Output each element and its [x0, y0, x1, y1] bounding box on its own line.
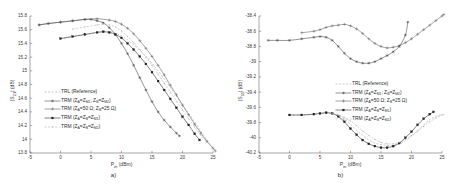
panel-b-caption: b) [227, 172, 454, 178]
legend-label: TRM (ZA=ZB=ZM2) [352, 116, 391, 122]
y-tick-label: -40 [227, 135, 256, 140]
x-tick-label: 10 [343, 155, 359, 160]
legend-item: TRL (Reference) [335, 80, 407, 89]
x-tick-label: 25 [434, 155, 450, 160]
legend-item: TRM (ZA=ZM1; ZB=ZM2) [335, 89, 407, 98]
y-tick-label: 15.4 [0, 41, 27, 46]
y-tick-label: 14.2 [0, 123, 27, 128]
x-tick-label: 20 [404, 155, 420, 160]
y-tick-label: -38.4 [227, 13, 256, 18]
legend-label: TRM (ZA=ZB=ZM2) [61, 124, 100, 130]
legend-marker-icon [335, 97, 352, 105]
legend-label: TRL (Reference) [61, 89, 97, 95]
legend-marker-icon [44, 88, 61, 96]
x-tick-label: 10 [114, 155, 130, 160]
figure-two-panel-chart: |S21| (dB) Pin (dBm) a) TRL (Reference)T… [0, 0, 455, 185]
x-tick-label: 5 [312, 155, 328, 160]
panel-b-x-axis-label: Pin (dBm) [326, 161, 376, 169]
legend-label: TRM (ZA=ZB=ZM1) [61, 115, 100, 121]
legend-label: TRM (ZA=50 Ω; ZB=25 Ω) [61, 106, 116, 112]
legend-item: TRM (ZA=ZB=ZM2) [44, 122, 116, 131]
y-tick-label: 14.4 [0, 109, 27, 114]
legend-marker-icon [335, 80, 352, 88]
legend-item: TRM (ZA=ZB=ZM1) [44, 114, 116, 123]
panel-a: |S21| (dB) Pin (dBm) a) TRL (Reference)T… [0, 0, 227, 185]
legend-label: TRM (ZA=ZM1; ZB=ZM2) [61, 98, 111, 104]
series-line [300, 13, 445, 49]
legend-item: TRM (ZA=ZM1; ZB=ZM2) [44, 97, 116, 106]
legend-marker-icon [44, 114, 61, 122]
legend-marker-icon [44, 105, 61, 113]
legend-item: TRM (ZA=50 Ω; ZB=25 Ω) [44, 105, 116, 114]
y-tick-label: 15.6 [0, 27, 27, 32]
x-tick-label: -5 [251, 155, 267, 160]
x-tick-label: 15 [144, 155, 160, 160]
panel-a-legend: TRL (Reference)TRM (ZA=ZM1; ZB=ZM2)TRM (… [44, 88, 116, 131]
series-line [38, 17, 217, 152]
x-tick-label: 5 [83, 155, 99, 160]
legend-item: TRM (ZA=50 Ω; ZB=25 Ω) [335, 97, 407, 106]
y-tick-label: -39.8 [227, 120, 256, 125]
y-tick-label: 14 [0, 137, 27, 142]
y-tick-label: -38.6 [227, 29, 256, 34]
legend-item: TRM (ZA=ZB=ZM1) [335, 106, 407, 115]
legend-marker-icon [44, 123, 61, 131]
x-tick-label: 0 [53, 155, 69, 160]
panel-a-caption: a) [0, 172, 227, 178]
series-line [267, 21, 409, 65]
y-tick-label: -39 [227, 59, 256, 64]
legend-label: TRM (ZA=50 Ω; ZB=25 Ω) [352, 98, 407, 104]
legend-item: TRM (ZA=ZB=ZM2) [335, 114, 407, 123]
y-tick-label: -39.4 [227, 90, 256, 95]
legend-item: TRL (Reference) [44, 88, 116, 97]
y-tick-label: 14.6 [0, 96, 27, 101]
legend-marker-icon [44, 97, 61, 105]
panel-b: |S11| (dB) Pin (dBm) b) TRL (Reference)T… [227, 0, 454, 185]
y-tick-label: 15 [0, 68, 27, 73]
panel-a-x-axis-label: Pin (dBm) [97, 161, 147, 169]
legend-label: TRL (Reference) [352, 81, 388, 87]
legend-label: TRM (ZA=ZB=ZM1) [352, 107, 391, 113]
x-tick-label: 0 [282, 155, 298, 160]
legend-marker-icon [335, 115, 352, 123]
x-tick-label: 15 [373, 155, 389, 160]
y-tick-label: -39.6 [227, 105, 256, 110]
y-tick-label: 15.8 [0, 13, 27, 18]
y-tick-label: 15.2 [0, 55, 27, 60]
x-tick-label: 25 [205, 155, 221, 160]
y-tick-label: 14.8 [0, 82, 27, 87]
legend-label: TRM (ZA=ZM1; ZB=ZM2) [352, 90, 402, 96]
y-tick-label: -38.8 [227, 44, 256, 49]
x-tick-label: -5 [22, 155, 38, 160]
panel-b-legend: TRL (Reference)TRM (ZA=ZM1; ZB=ZM2)TRM (… [335, 80, 407, 123]
x-tick-label: 20 [175, 155, 191, 160]
legend-marker-icon [335, 106, 352, 114]
legend-marker-icon [335, 89, 352, 97]
y-tick-label: -39.2 [227, 74, 256, 79]
